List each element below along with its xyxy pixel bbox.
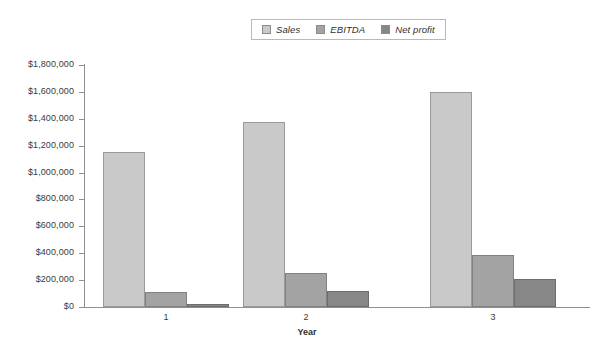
bar-sales-year-3[interactable]	[430, 92, 472, 307]
y-axis-label: $0	[0, 301, 74, 311]
legend-label-sales: Sales	[276, 24, 300, 35]
bar-sales-year-1[interactable]	[103, 152, 145, 307]
bar-net-profit-year-1[interactable]	[187, 304, 229, 307]
y-axis-label: $600,000	[0, 220, 74, 230]
bar-sales-year-2[interactable]	[243, 122, 285, 307]
bar-ebitda-year-1[interactable]	[145, 292, 187, 307]
bar-ebitda-year-3[interactable]	[472, 255, 514, 307]
x-axis-line	[84, 307, 590, 308]
y-axis-label: $800,000	[0, 193, 74, 203]
x-axis-label-2: 2	[286, 312, 326, 322]
y-axis-label: $1,000,000	[0, 167, 74, 177]
legend-item-ebitda[interactable]: EBITDA	[316, 24, 365, 35]
legend-label-net-profit: Net profit	[395, 24, 435, 35]
y-axis-tick	[79, 307, 84, 308]
y-axis-label: $1,600,000	[0, 86, 74, 96]
bar-net-profit-year-2[interactable]	[327, 291, 369, 307]
x-axis-label-3: 3	[473, 312, 513, 322]
y-axis-label: $1,400,000	[0, 113, 74, 123]
chart-legend: Sales EBITDA Net profit	[251, 19, 446, 40]
bar-chart: Sales EBITDA Net profit $0$200,000$400,0…	[0, 0, 614, 350]
y-axis-label: $200,000	[0, 274, 74, 284]
y-axis-label: $1,200,000	[0, 140, 74, 150]
legend-swatch-net-profit	[381, 25, 390, 34]
x-axis-title: Year	[0, 327, 614, 337]
y-axis-label: $1,800,000	[0, 59, 74, 69]
x-axis-label-1: 1	[146, 312, 186, 322]
legend-label-ebitda: EBITDA	[330, 24, 365, 35]
bar-net-profit-year-3[interactable]	[514, 279, 556, 307]
legend-item-net-profit[interactable]: Net profit	[381, 24, 435, 35]
bar-ebitda-year-2[interactable]	[285, 273, 327, 307]
legend-swatch-sales	[262, 25, 271, 34]
legend-item-sales[interactable]: Sales	[262, 24, 300, 35]
y-axis-label: $400,000	[0, 247, 74, 257]
plot-area	[84, 65, 590, 307]
legend-swatch-ebitda	[316, 25, 325, 34]
